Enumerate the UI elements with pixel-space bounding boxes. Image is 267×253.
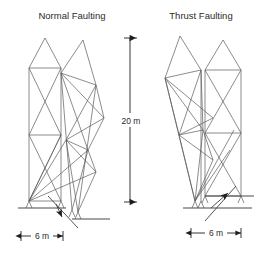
fault-diagram-svg: Normal Faulting Thrust Faulting: [0, 0, 267, 253]
dimension-tower-height: 20 m: [118, 38, 144, 202]
tower-normal-tilted: [29, 40, 104, 219]
dimension-label-base-thrust: 6 m: [209, 228, 223, 238]
fault-plane-thrust: [205, 186, 236, 221]
dimension-label-base-normal: 6 m: [35, 231, 49, 241]
fault-plane-normal: [48, 196, 78, 228]
diagram-canvas: Normal Faulting Thrust Faulting: [0, 0, 267, 253]
panel-normal-faulting: 6 m: [18, 38, 110, 242]
dimension-base-width-normal: 6 m: [21, 230, 63, 242]
panel-title-normal-faulting: Normal Faulting: [38, 10, 105, 21]
dimension-base-width-thrust: 6 m: [191, 227, 241, 239]
panel-title-thrust-faulting: Thrust Faulting: [169, 10, 232, 21]
tower-normal-upright: [26, 38, 64, 208]
dimension-label-height: 20 m: [122, 116, 141, 126]
panel-thrust-faulting: 6 m: [165, 36, 254, 239]
tower-thrust-upright: [202, 40, 244, 203]
tower-thrust-tilted: [165, 36, 234, 208]
